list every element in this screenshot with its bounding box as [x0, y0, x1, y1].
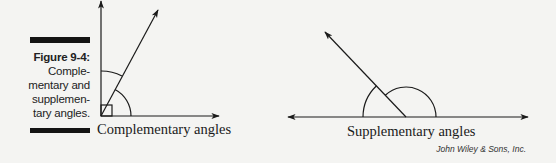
diagonal-ray: [101, 10, 158, 116]
image-credit: John Wiley & Sons, Inc.: [436, 144, 526, 154]
left-angle-arc: [363, 86, 376, 117]
complementary-angles-label: Complementary angles: [97, 121, 231, 138]
supplementary-angles-label: Supplementary angles: [347, 123, 475, 140]
complementary-angles-diagram: [101, 1, 219, 116]
upper-angle-arc: [101, 71, 122, 76]
diagonal-ray: [325, 32, 406, 117]
right-angle-arc: [385, 87, 436, 117]
lower-angle-arc: [115, 90, 131, 117]
supplementary-angles-diagram: [288, 32, 528, 117]
